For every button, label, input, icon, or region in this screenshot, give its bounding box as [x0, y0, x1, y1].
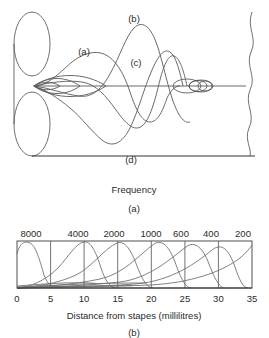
- frequency-label-row: 8000 4000 2000 1000 600 400 200: [20, 228, 251, 239]
- x-tick-30: 30: [213, 293, 224, 304]
- frequency-label-1000: 1000: [140, 228, 161, 239]
- curve-label-b: (b): [128, 13, 140, 24]
- curve-label-c: (c): [130, 57, 141, 68]
- figure-root: (a) (b) (c) (d) Frequency (a) 8000 4000 …: [0, 0, 269, 338]
- curve-label-a: (a): [78, 46, 90, 57]
- waveform-b: [34, 24, 190, 122]
- frequency-label-400: 400: [203, 228, 219, 239]
- envelope-600: [17, 244, 225, 288]
- plot-gridlines: [51, 241, 219, 288]
- x-tick-0: 0: [14, 293, 19, 304]
- frequency-label-4000: 4000: [67, 228, 88, 239]
- torn-edge-right: [247, 12, 253, 156]
- envelope-curves: [17, 242, 252, 288]
- panel-b-caption: (b): [128, 327, 140, 338]
- cochlear-duct-outline: [14, 12, 255, 156]
- panel-a-title: Frequency: [112, 184, 157, 195]
- frequency-label-8000: 8000: [20, 228, 41, 239]
- waveform-d: [34, 51, 183, 144]
- x-tick-25: 25: [180, 293, 191, 304]
- x-tick-5: 5: [48, 293, 53, 304]
- waveform-c: [34, 56, 187, 128]
- curve-label-d: (d): [125, 154, 137, 165]
- x-tick-10: 10: [79, 293, 90, 304]
- x-axis-label: Distance from stapes (millilitres): [67, 310, 202, 321]
- envelope-2000: [17, 242, 153, 288]
- frequency-label-2000: 2000: [103, 228, 124, 239]
- envelope-1000: [17, 242, 191, 288]
- x-tick-15: 15: [112, 293, 123, 304]
- envelope-4000: [17, 242, 116, 288]
- x-tick-35: 35: [247, 293, 258, 304]
- x-tick-20: 20: [146, 293, 157, 304]
- panel-b-diagram: Frequency (a) 8000 4000 2000 1000 600 40…: [0, 180, 269, 338]
- panel-a-diagram: (a) (b) (c) (d): [0, 0, 269, 180]
- panel-a-caption: (a): [128, 203, 140, 214]
- frequency-label-600: 600: [173, 228, 189, 239]
- x-axis-tick-labels: 0 5 10 15 20 25 30 35: [14, 293, 257, 304]
- envelope-400: [17, 247, 248, 288]
- frequency-label-200: 200: [235, 228, 251, 239]
